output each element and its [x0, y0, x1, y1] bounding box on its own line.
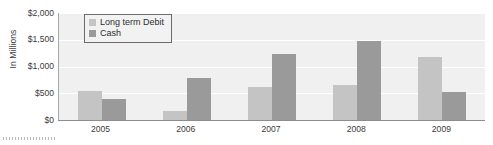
- x-axis-tick-label: 2005: [58, 122, 143, 138]
- x-axis-tick-label: 2006: [143, 122, 228, 138]
- x-axis-tick-label: 2007: [228, 122, 313, 138]
- bar[interactable]: [187, 78, 211, 120]
- y-axis-tick-labels: $0$500$1,000$1,500$2,000: [0, 0, 54, 145]
- bar[interactable]: [248, 87, 272, 120]
- bar[interactable]: [357, 41, 381, 120]
- legend-item[interactable]: Cash: [89, 28, 164, 39]
- bar[interactable]: [333, 85, 357, 120]
- bar[interactable]: [78, 91, 102, 120]
- x-axis-tick-label: 2008: [314, 122, 399, 138]
- legend-item-label: Long term Debit: [100, 17, 164, 28]
- bar[interactable]: [272, 54, 296, 120]
- x-axis-tick-label: 2009: [399, 122, 484, 138]
- bar-group: [315, 13, 400, 120]
- legend-swatch-icon: [89, 30, 96, 37]
- legend-item[interactable]: Long term Debit: [89, 17, 164, 28]
- y-axis-tick-label: $0: [8, 115, 54, 125]
- y-axis-tick-label: $1,500: [8, 34, 54, 44]
- bar-group: [229, 13, 314, 120]
- x-axis-tick-labels: 20052006200720082009: [58, 122, 484, 138]
- bar[interactable]: [102, 99, 126, 120]
- bar-group: [400, 13, 485, 120]
- legend-item-label: Cash: [100, 28, 121, 39]
- chart-legend: Long term DebitCash: [84, 14, 172, 43]
- bar[interactable]: [418, 57, 442, 120]
- bar[interactable]: [442, 92, 466, 120]
- dotted-line-marker: [3, 137, 57, 140]
- y-axis-tick-label: $500: [8, 88, 54, 98]
- y-axis-tick-label: $2,000: [8, 8, 54, 18]
- bar-chart: In Millions $0$500$1,000$1,500$2,000 200…: [0, 0, 493, 145]
- y-axis-tick-label: $1,000: [8, 61, 54, 71]
- bar[interactable]: [163, 111, 187, 120]
- legend-swatch-icon: [89, 19, 96, 26]
